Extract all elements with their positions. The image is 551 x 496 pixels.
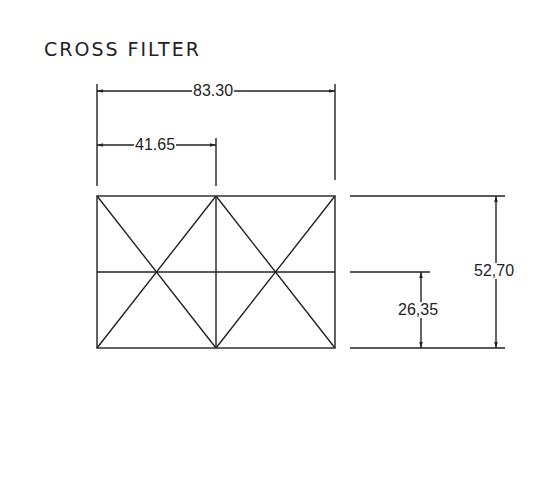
- dim-label-half-width: 41.65: [134, 137, 176, 153]
- cross-filter-drawing: [0, 0, 551, 496]
- filter-frame: [97, 196, 335, 348]
- dim-label-overall-width: 83.30: [192, 83, 234, 99]
- dim-label-overall-height: 52,70: [473, 263, 515, 279]
- dim-label-half-height: 26,35: [397, 302, 439, 318]
